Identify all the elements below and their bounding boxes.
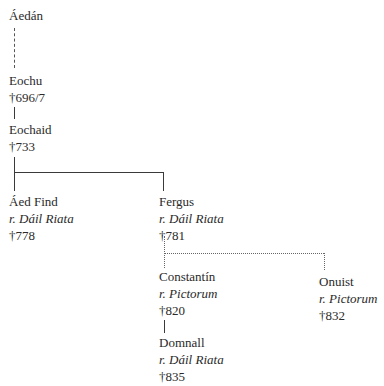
person-name: Onuist: [319, 273, 378, 290]
person-eochu: Eochu †696/7: [9, 72, 45, 106]
person-name: Áedán: [9, 7, 43, 24]
person-death: †696/7: [9, 89, 45, 106]
person-name: Eochaid: [9, 121, 52, 138]
person-eochaid: Eochaid †733: [9, 121, 52, 155]
person-name: Áed Find: [9, 193, 74, 210]
person-constantin: Constantín r. Pictorum †820: [159, 268, 218, 319]
person-name: Fergus: [159, 193, 224, 210]
person-name: Eochu: [9, 72, 45, 89]
person-title: r. Pictorum: [159, 285, 218, 302]
link-eochaid-sibling-bar: [14, 172, 164, 173]
person-death: †733: [9, 138, 52, 155]
person-death: †832: [319, 307, 378, 324]
person-title: r. Dáil Riata: [9, 210, 74, 227]
person-name: Constantín: [159, 268, 218, 285]
link-fergus-down: [164, 236, 165, 268]
person-death: †781: [159, 227, 224, 244]
person-death: †835: [159, 368, 224, 385]
person-domnall: Domnall r. Dáil Riata †835: [159, 334, 224, 385]
link-bar-fergus: [163, 172, 164, 191]
person-onuist: Onuist r. Pictorum †832: [319, 273, 378, 324]
person-aed-find: Áed Find r. Dáil Riata †778: [9, 193, 74, 244]
person-fergus: Fergus r. Dáil Riata †781: [159, 193, 224, 244]
link-eochu-eochaid: [14, 107, 15, 119]
link-bar-onuist: [324, 253, 325, 270]
person-name: Domnall: [159, 334, 224, 351]
link-constantin-domnall: [164, 320, 165, 333]
person-death: †778: [9, 227, 74, 244]
link-aedan-eochu: [14, 28, 15, 68]
person-aedan: Áedán: [9, 7, 43, 24]
link-fergus-sibling-bar: [164, 253, 324, 254]
person-title: r. Pictorum: [319, 290, 378, 307]
person-death: †820: [159, 302, 218, 319]
link-eochaid-down: [14, 157, 15, 191]
person-title: r. Dáil Riata: [159, 210, 224, 227]
person-title: r. Dáil Riata: [159, 351, 224, 368]
